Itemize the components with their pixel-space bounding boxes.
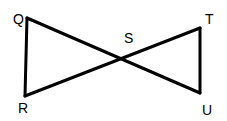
label-u: U bbox=[202, 102, 212, 118]
label-r: R bbox=[18, 100, 28, 116]
bowtie-diagram: Q R S T U bbox=[0, 0, 227, 121]
label-t: T bbox=[205, 11, 214, 27]
label-q: Q bbox=[13, 11, 24, 27]
segment-rt bbox=[25, 28, 200, 96]
segment-qu bbox=[27, 18, 200, 93]
segment-qr bbox=[25, 18, 27, 96]
label-s: S bbox=[124, 30, 133, 46]
